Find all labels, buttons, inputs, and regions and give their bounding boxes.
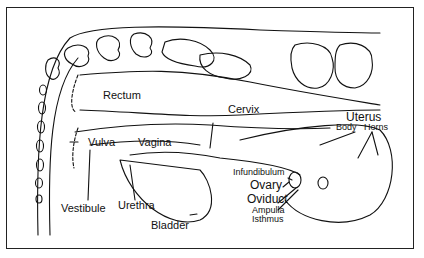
label-ovary: Ovary (250, 179, 282, 191)
label-vestibule: Vestibule (61, 203, 106, 214)
label-rectum: Rectum (103, 90, 141, 101)
label-infundibulum: Infundibulum (233, 168, 285, 177)
label-uterus-body: Body (336, 123, 357, 132)
label-bladder: Bladder (151, 220, 189, 231)
vertebrae (46, 33, 373, 88)
label-oviduct: Oviduct (247, 193, 288, 205)
label-vagina: Vagina (138, 137, 171, 148)
label-vulva: Vulva (88, 137, 115, 148)
label-urethra: Urethra (118, 200, 155, 211)
label-uterus-horns: Horns (364, 123, 388, 132)
label-isthmus: Isthmus (252, 215, 284, 224)
tail-vertebrae (36, 85, 47, 203)
anatomy-drawing (0, 0, 424, 258)
label-cervix: Cervix (228, 104, 259, 115)
